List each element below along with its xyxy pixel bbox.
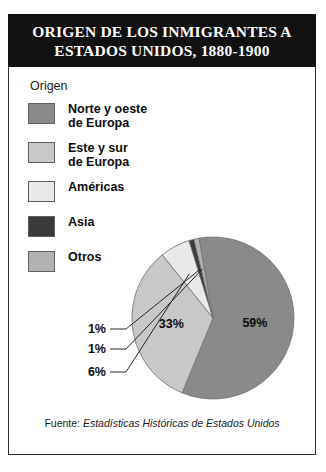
- legend-item-norte-y-oeste-de-europa[interactable]: Norte y oeste de Europa: [28, 102, 198, 130]
- legend-swatch-icon: [28, 216, 55, 237]
- title-banner: ORIGEN DE LOS INMIGRANTES A ESTADOS UNID…: [8, 14, 316, 67]
- legend-swatch-icon: [28, 142, 55, 163]
- source-prefix: Fuente:: [44, 417, 83, 429]
- legend-item-label: Asia: [68, 215, 94, 229]
- chart-body: Origen Norte y oeste de Europa Este y su…: [8, 67, 316, 455]
- legend-item-label: Américas: [68, 180, 124, 194]
- legend-item-label: Otros: [68, 250, 101, 264]
- legend-item-americas[interactable]: Américas: [28, 180, 198, 204]
- callout-leader-line: [110, 274, 189, 372]
- legend-item-label: Norte y oeste de Europa: [68, 102, 147, 130]
- pie-slice-value-label: 59%: [242, 316, 267, 330]
- pie-value-labels: 59%33%1%1%6%: [88, 316, 267, 380]
- source-title: Estadísticas Históricas de Estados Unido…: [83, 417, 280, 429]
- legend-swatch-icon: [28, 181, 55, 202]
- legend-item-asia[interactable]: Asia: [28, 215, 198, 239]
- legend-swatch-icon: [28, 251, 55, 272]
- page-title: ORIGEN DE LOS INMIGRANTES A ESTADOS UNID…: [26, 22, 297, 60]
- infographic-page: ORIGEN DE LOS INMIGRANTES A ESTADOS UNID…: [0, 0, 326, 472]
- pie-callout-value-label: 1%: [88, 342, 106, 356]
- legend-title: Origen: [28, 79, 198, 93]
- legend-item-este-y-sur-de-europa[interactable]: Este y sur de Europa: [28, 141, 198, 169]
- legend-item-otros[interactable]: Otros: [28, 250, 198, 274]
- pie-callout-value-label: 6%: [88, 365, 106, 379]
- source-note: Fuente: Estadísticas Históricas de Estad…: [8, 417, 316, 429]
- legend-item-label: Este y sur de Europa: [68, 141, 129, 169]
- pie-slice-value-label: 33%: [159, 317, 184, 331]
- legend: Origen Norte y oeste de Europa Este y su…: [28, 79, 198, 285]
- pie-slice[interactable]: [182, 237, 294, 399]
- legend-swatch-icon: [28, 103, 55, 124]
- pie-callout-value-label: 1%: [88, 322, 106, 336]
